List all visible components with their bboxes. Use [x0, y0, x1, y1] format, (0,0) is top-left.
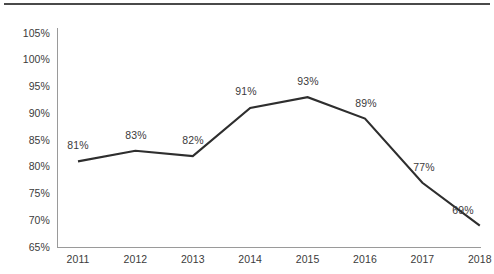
y-axis-tick-70: 70%: [4, 215, 50, 226]
line-chart-figure: 105% 100% 95% 90% 85% 80% 75% 70% 65% 20…: [0, 0, 494, 274]
data-label-2012: 83%: [116, 130, 156, 141]
x-axis-tick-2012: 2012: [113, 254, 157, 265]
data-label-2017: 77%: [404, 162, 444, 173]
data-label-2015: 93%: [288, 76, 328, 87]
x-axis-tick-2018: 2018: [458, 254, 494, 265]
x-axis-tick-2016: 2016: [343, 254, 387, 265]
chart-plot-area: [0, 0, 494, 274]
y-axis-tick-75: 75%: [4, 188, 50, 199]
x-axis-tick-2015: 2015: [286, 254, 330, 265]
x-axis-tick-2011: 2011: [56, 254, 100, 265]
x-axis-tick-2013: 2013: [171, 254, 215, 265]
y-axis-tick-85: 85%: [4, 135, 50, 146]
y-axis-tick-105: 105%: [4, 28, 50, 39]
x-axis-tick-2014: 2014: [228, 254, 272, 265]
x-axis-tick-2017: 2017: [400, 254, 444, 265]
data-label-2011: 81%: [58, 140, 98, 151]
data-label-2013: 82%: [173, 135, 213, 146]
y-axis-tick-90: 90%: [4, 108, 50, 119]
y-axis-tick-95: 95%: [4, 81, 50, 92]
y-axis-tick-80: 80%: [4, 161, 50, 172]
y-axis-tick-65: 65%: [4, 242, 50, 253]
data-label-2016: 89%: [346, 98, 386, 109]
data-label-2014: 91%: [226, 86, 266, 97]
data-label-2018: 69%: [443, 205, 483, 216]
y-axis-tick-100: 100%: [4, 54, 50, 65]
